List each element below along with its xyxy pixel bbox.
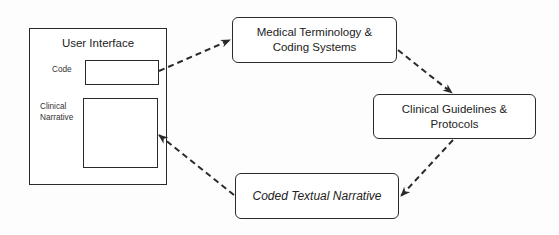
medical-terminology-node: Medical Terminology & Coding Systems	[232, 17, 397, 63]
coded-narrative-label: Coded Textual Narrative	[253, 189, 382, 204]
coded-narrative-node: Coded Textual Narrative	[235, 173, 399, 219]
arrow-code-to-medical	[159, 40, 230, 71]
code-field[interactable]	[85, 60, 159, 85]
clinical-guidelines-label: Clinical Guidelines & Protocols	[402, 102, 507, 132]
user-interface-panel: User Interface Code Clinical Narrative	[29, 28, 167, 185]
clinical-narrative-label: Clinical Narrative	[40, 101, 73, 123]
user-interface-title: User Interface	[30, 37, 166, 49]
clinical-narrative-field[interactable]	[83, 98, 158, 168]
diagram-canvas: User Interface Code Clinical Narrative M…	[0, 0, 559, 235]
clinical-guidelines-node: Clinical Guidelines & Protocols	[373, 94, 536, 139]
arrow-clinical-to-coded	[401, 140, 453, 196]
medical-terminology-label: Medical Terminology & Coding Systems	[257, 25, 372, 55]
arrow-coded-to-narrative	[159, 135, 234, 195]
code-label: Code	[52, 64, 72, 75]
arrow-medical-to-clinical	[398, 50, 452, 93]
